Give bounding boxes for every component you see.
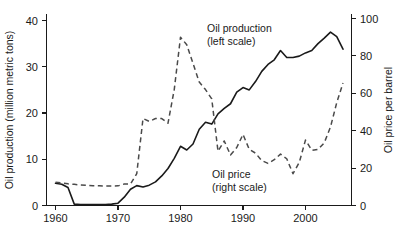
- left-tick-label-10: 10: [26, 153, 38, 165]
- oil-production-price-chart: 0 10 20 30 40 0 20 40 60 80 100: [0, 0, 400, 249]
- x-tick-label-1980: 1980: [168, 212, 192, 224]
- right-axis-ticks: [352, 19, 357, 206]
- series-oil-price: [56, 37, 344, 186]
- x-tick-label-2000: 2000: [293, 212, 317, 224]
- oil-price-annotation-line1: Oil price: [212, 168, 251, 180]
- right-tick-label-80: 80: [360, 50, 372, 62]
- chart-figure: 0 10 20 30 40 0 20 40 60 80 100: [0, 0, 400, 249]
- right-tick-label-40: 40: [360, 125, 372, 137]
- right-tick-label-20: 20: [360, 162, 372, 174]
- x-axis-ticks: [56, 206, 306, 211]
- right-tick-label-0: 0: [360, 200, 366, 212]
- left-axis-tick-labels: 0 10 20 30 40: [26, 15, 38, 212]
- left-tick-label-20: 20: [26, 107, 38, 119]
- left-tick-label-0: 0: [32, 200, 38, 212]
- oil-price-annotation: Oil price (right scale): [212, 168, 267, 193]
- right-axis-tick-labels: 0 20 40 60 80 100: [360, 13, 378, 212]
- left-tick-label-30: 30: [26, 61, 38, 73]
- right-tick-label-100: 100: [360, 13, 378, 25]
- oil-production-annotation: Oil production (left scale): [207, 22, 272, 47]
- oil-production-annotation-line1: Oil production: [207, 22, 272, 34]
- x-tick-label-1970: 1970: [106, 212, 130, 224]
- x-tick-label-1960: 1960: [43, 212, 67, 224]
- left-axis-ticks: [42, 21, 47, 206]
- left-tick-label-40: 40: [26, 15, 38, 27]
- series-oil-production: [56, 32, 344, 205]
- oil-production-annotation-line2: (left scale): [207, 35, 255, 47]
- left-axis-title: Oil production (million metric tons): [3, 31, 15, 190]
- right-tick-label-60: 60: [360, 87, 372, 99]
- oil-price-line: [56, 37, 344, 186]
- x-tick-label-1990: 1990: [231, 212, 255, 224]
- right-axis-title: Oil price per barrel: [382, 67, 394, 153]
- oil-price-annotation-line2: (right scale): [212, 181, 267, 193]
- oil-production-line: [56, 32, 344, 205]
- x-axis-tick-labels: 1960 1970 1980 1990 2000: [43, 212, 317, 224]
